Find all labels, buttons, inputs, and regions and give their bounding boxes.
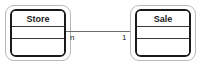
diagram-canvas: Store n 1 Sale bbox=[0, 0, 202, 67]
entity-sale-name-label: Sale bbox=[154, 14, 173, 24]
entity-sale-name-compartment: Sale bbox=[137, 11, 189, 27]
entity-sale-attributes-compartment bbox=[137, 27, 189, 39]
entity-sale-operations-compartment bbox=[137, 39, 189, 55]
entity-sale-inner-box: Sale bbox=[135, 9, 191, 57]
entity-store-attributes-compartment bbox=[12, 27, 64, 39]
cardinality-label-target: 1 bbox=[122, 33, 126, 42]
entity-store-name-label: Store bbox=[26, 14, 49, 24]
entity-store[interactable]: Store bbox=[5, 5, 71, 61]
cardinality-label-source: n bbox=[70, 33, 74, 42]
entity-sale[interactable]: Sale bbox=[130, 5, 196, 61]
relationship-connector-line[interactable] bbox=[66, 31, 135, 32]
entity-store-name-compartment: Store bbox=[12, 11, 64, 27]
entity-store-inner-box: Store bbox=[10, 9, 66, 57]
entity-store-operations-compartment bbox=[12, 39, 64, 55]
